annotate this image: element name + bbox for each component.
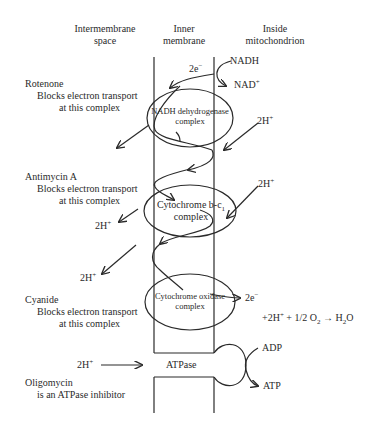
reaction-oxygen-sub: 2	[317, 318, 321, 326]
water-formation-reaction: +2H+ + 1/2 O2 → H2O	[262, 312, 353, 324]
reaction-protons: +2H	[262, 312, 280, 323]
complex-name: NADH dehydrogenase	[143, 106, 237, 116]
proton-label-4: 2H+	[80, 272, 96, 284]
inhibitor-antimycin-a: Antimycin A Blocks electron transport at…	[25, 171, 138, 207]
inhibitor-line: at this complex	[25, 195, 138, 207]
header-inside-mitochondrion: Inside mitochondrion	[225, 23, 325, 47]
electron-charge: −	[254, 291, 258, 299]
header-intermembrane-space: Intermembrane space	[55, 23, 155, 47]
electrons-label-bottom: 2e−	[245, 292, 258, 304]
proton-text: 2H	[77, 359, 89, 370]
inhibitor-name: Oligomycin	[25, 377, 125, 389]
proton-label-atpase: 2H+	[77, 359, 93, 371]
proton-text: 2H	[80, 272, 92, 283]
header-line: space	[55, 35, 155, 47]
inhibitor-name: Antimycin A	[25, 171, 138, 183]
electrons-label-top: 2e−	[189, 63, 202, 75]
inhibitor-line: Blocks electron transport	[25, 183, 138, 195]
header-line: Intermembrane	[55, 23, 155, 35]
header-line: membrane	[154, 35, 214, 47]
proton-charge: +	[269, 114, 273, 122]
inhibitor-line: at this complex	[25, 102, 138, 114]
proton-label-3: 2H+	[95, 220, 111, 232]
proton-text: 2H	[95, 220, 107, 231]
nad-text: NAD	[234, 79, 256, 90]
complex-sub: complex	[145, 301, 235, 311]
adp-label: ADP	[262, 342, 282, 354]
proton-label-2: 2H+	[258, 178, 274, 190]
electron-transport-chain-diagram: Intermembrane space Inner membrane Insid…	[0, 0, 377, 436]
nadh-label: NADH	[230, 55, 259, 67]
inhibitor-line: is an ATPase inhibitor	[25, 389, 125, 401]
reaction-product: H	[335, 312, 342, 323]
complex-sub: complex	[143, 116, 237, 126]
inhibitor-line: at this complex	[25, 318, 138, 330]
complex-name: Cytochrome b-c1	[146, 199, 236, 211]
proton-label-1: 2H+	[257, 115, 273, 127]
proton-charge: +	[107, 219, 111, 227]
complex-label-cytochrome-oxidase: Cytochrome oxidase complex	[145, 291, 235, 311]
proton-charge: +	[92, 271, 96, 279]
complex-name-text: Cytochrome b-c	[157, 199, 222, 210]
inhibitor-name: Cyanide	[25, 294, 138, 306]
reaction-oxygen: + 1/2 O	[284, 312, 317, 323]
reaction-arrow-icon: →	[323, 312, 333, 323]
inhibitor-line: Blocks electron transport	[25, 90, 138, 102]
inhibitor-rotenone: Rotenone Blocks electron transport at th…	[25, 78, 138, 114]
header-line: Inside	[225, 23, 325, 35]
atpase-label: ATPase	[166, 359, 197, 371]
nad-label: NAD+	[234, 79, 260, 91]
proton-charge: +	[270, 177, 274, 185]
header-line: Inner	[154, 23, 214, 35]
proton-charge: +	[89, 358, 93, 366]
atp-label: ATP	[263, 380, 281, 392]
header-line: mitochondrion	[225, 35, 325, 47]
proton-text: 2H	[257, 115, 269, 126]
complex-label-nadh-dehydrogenase: NADH dehydrogenase complex	[143, 106, 237, 126]
proton-text: 2H	[258, 178, 270, 189]
nad-charge: +	[256, 78, 260, 86]
header-inner-membrane: Inner membrane	[154, 23, 214, 47]
inhibitor-oligomycin: Oligomycin is an ATPase inhibitor	[25, 377, 125, 401]
inhibitor-cyanide: Cyanide Blocks electron transport at thi…	[25, 294, 138, 330]
complex-subscript: 1	[222, 205, 226, 213]
electron-charge: −	[198, 62, 202, 70]
reaction-product-tail: O	[346, 312, 353, 323]
complex-name: Cytochrome oxidase	[145, 291, 235, 301]
complex-label-cytochrome-bc1: Cytochrome b-c1 complex	[146, 199, 236, 223]
inhibitor-line: Blocks electron transport	[25, 306, 138, 318]
inhibitor-name: Rotenone	[25, 78, 138, 90]
